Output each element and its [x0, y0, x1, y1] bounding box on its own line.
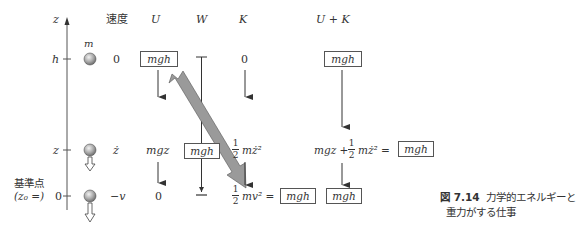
ball-middle-icon [84, 144, 96, 156]
axis-label-z: z [53, 14, 59, 25]
UK-bottom-box: mgh [326, 188, 362, 204]
header-U: U [151, 14, 160, 25]
denominator: 2 [233, 151, 239, 160]
reference-z0-label: (z₀ =) [14, 191, 44, 202]
velocity-arrow-middle-icon [85, 157, 95, 171]
header-velocity: 速度 [106, 14, 128, 25]
K-middle-fraction: 12 [232, 139, 239, 160]
header-K: K [239, 14, 247, 25]
UK-middle-rest: mż² = [358, 145, 390, 156]
UK-middle-prefix: mgz + [314, 145, 348, 156]
K-bottom-box: mgh [280, 188, 316, 204]
ball-bottom-icon [84, 190, 96, 202]
ball-top-icon [84, 53, 96, 65]
velocity-arrow-bottom-icon [85, 203, 95, 222]
velocity-top: 0 [113, 54, 120, 65]
header-U-plus-K: U + K [316, 14, 350, 25]
tick-label-h: h [52, 54, 59, 65]
figure-caption-line2: 重力がする仕事 [446, 207, 516, 218]
mass-label: m [84, 39, 93, 49]
denominator: 2 [233, 197, 239, 206]
K-middle-rest: mż² [242, 145, 262, 156]
U-top-box: mgh [140, 51, 178, 67]
header-W: W [196, 14, 207, 25]
tick-label-z: z [53, 145, 59, 156]
axis-arrow-icon [65, 17, 70, 25]
reference-point-label: 基準点 [14, 178, 44, 189]
caption-title: 力学的エネルギーと [486, 191, 576, 203]
U-middle: mgz [146, 145, 169, 156]
UK-top-box: mgh [324, 51, 362, 67]
K-bottom-fraction: 12 [232, 185, 239, 206]
velocity-bottom: −v [110, 191, 125, 202]
U-bottom: 0 [155, 191, 162, 202]
z-axis [63, 17, 71, 210]
denominator: 2 [349, 151, 355, 160]
figure-caption-line1: 図 7.14 力学的エネルギーと [440, 192, 576, 203]
figure-number: 図 7.14 [440, 191, 480, 203]
W-middle-box: mgh [184, 143, 220, 159]
K-top: 0 [241, 54, 248, 65]
K-bottom-rest: mv² = [242, 191, 274, 202]
tick-label-0: 0 [55, 191, 62, 202]
energy-transfer-arrow-icon [169, 71, 246, 188]
numerator: 1 [233, 185, 239, 194]
UK-middle-fraction: 12 [348, 139, 355, 160]
velocity-middle: ż [113, 145, 119, 156]
UK-middle-box: mgh [398, 141, 434, 157]
numerator: 1 [349, 139, 355, 148]
numerator: 1 [233, 139, 239, 148]
